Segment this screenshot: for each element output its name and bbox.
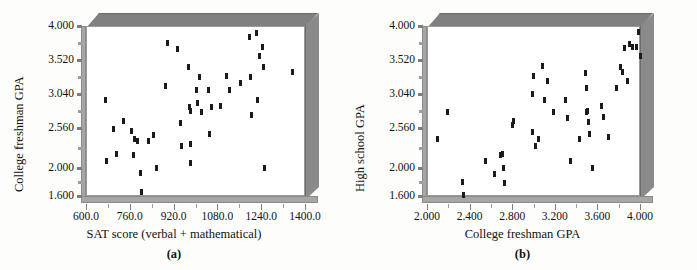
data-point <box>546 78 549 84</box>
data-point <box>578 136 581 142</box>
x-tick-label: 1400.0 <box>275 210 335 222</box>
data-point <box>147 138 150 144</box>
data-point <box>176 46 179 52</box>
plot-area-a <box>86 26 305 196</box>
x-axis-title: SAT score (verbal + mathematical) <box>0 227 348 242</box>
data-point <box>179 120 182 126</box>
data-point <box>631 44 634 50</box>
y-tick-major <box>77 127 82 130</box>
y-tick-minor <box>78 42 82 45</box>
y-tick-minor <box>419 42 423 45</box>
data-point <box>115 151 118 157</box>
data-point <box>258 53 261 59</box>
data-point <box>262 64 265 70</box>
y-tick-major <box>77 167 82 170</box>
data-point <box>228 87 231 93</box>
panel-caption-b: (b) <box>348 247 697 262</box>
y-tick-label: 2.560 <box>365 121 415 133</box>
x-tick-minor <box>239 204 240 208</box>
data-point <box>600 103 603 109</box>
y-tick-label: 3.040 <box>365 87 415 99</box>
data-point <box>140 189 143 195</box>
y-tick-major <box>77 59 82 62</box>
y-tick-label: 4.000 <box>365 19 415 31</box>
x-axis-title: College freshman GPA <box>348 227 697 242</box>
x-tick-minor <box>534 204 535 208</box>
data-point <box>591 165 594 171</box>
y-tick-major <box>418 25 423 28</box>
data-point <box>534 143 537 149</box>
y-tick-major <box>418 195 423 198</box>
y-tick-minor <box>419 76 423 79</box>
x-tick-minor <box>108 204 109 208</box>
y-tick-minor <box>78 181 82 184</box>
y-tick-major <box>77 195 82 198</box>
plot-frame-right-bevel <box>305 13 319 200</box>
y-tick-minor <box>78 76 82 79</box>
data-point <box>195 87 198 93</box>
x-tick-minor <box>491 204 492 208</box>
data-point <box>588 131 591 137</box>
data-point <box>623 45 626 51</box>
data-point <box>626 78 629 84</box>
x-axis-bar <box>422 196 653 203</box>
data-point <box>139 170 142 176</box>
x-tick-minor <box>283 204 284 208</box>
y-tick-label: 4.000 <box>24 19 74 31</box>
data-point <box>566 115 569 121</box>
data-point <box>189 108 192 114</box>
data-point <box>208 131 211 137</box>
panel-caption-a: (a) <box>0 247 348 262</box>
data-point <box>531 129 534 135</box>
x-axis-bar <box>81 196 318 203</box>
data-point <box>493 171 496 177</box>
data-point <box>543 97 546 103</box>
data-point <box>512 118 515 124</box>
plot-frame-right-bevel <box>640 13 654 200</box>
y-tick-label: 2.000 <box>365 161 415 173</box>
y-tick-minor <box>78 110 82 113</box>
data-point <box>261 44 264 50</box>
data-point <box>189 160 192 166</box>
data-point <box>112 126 115 132</box>
figure-scatterplot-pair: 1.6002.0002.5603.0403.5204.000600.0760.0… <box>0 0 697 270</box>
y-tick-label: 1.600 <box>24 189 74 201</box>
data-point <box>461 179 464 185</box>
data-point <box>196 100 199 106</box>
data-point <box>255 30 258 36</box>
data-point <box>502 165 505 171</box>
data-point <box>263 165 266 171</box>
data-point <box>225 73 228 79</box>
y-tick-major <box>418 59 423 62</box>
plot-area-b <box>427 26 640 196</box>
y-tick-minor <box>419 181 423 184</box>
data-point <box>250 112 253 118</box>
data-point <box>130 128 133 134</box>
data-point <box>531 91 534 97</box>
y-tick-label: 2.560 <box>24 121 74 133</box>
data-point <box>436 136 439 142</box>
data-point <box>541 63 544 69</box>
y-axis-title: High school GPA <box>353 104 368 192</box>
data-point <box>166 40 169 46</box>
y-tick-label: 1.600 <box>365 189 415 201</box>
data-point <box>122 118 125 124</box>
y-tick-label: 3.520 <box>365 53 415 65</box>
data-point <box>585 85 588 91</box>
data-point <box>136 138 139 144</box>
y-axis-bar <box>81 26 86 203</box>
data-point <box>256 97 259 103</box>
data-point <box>104 97 107 103</box>
data-point <box>602 114 605 120</box>
x-tick-minor <box>448 204 449 208</box>
x-tick-minor <box>196 204 197 208</box>
data-point <box>198 74 201 80</box>
data-point <box>132 152 135 158</box>
x-tick-minor <box>152 204 153 208</box>
data-point <box>537 136 540 142</box>
data-point <box>607 134 610 140</box>
data-point <box>635 44 638 50</box>
data-point <box>584 70 587 76</box>
y-tick-major <box>77 93 82 96</box>
y-tick-label: 2.000 <box>24 161 74 173</box>
